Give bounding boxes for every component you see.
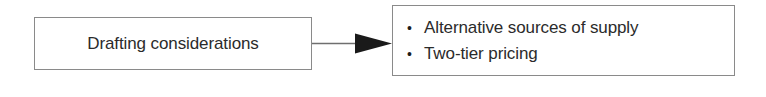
source-node[interactable]: Drafting considerations	[34, 17, 312, 70]
list-item-label: Alternative sources of supply	[424, 15, 638, 41]
bullet-icon: •	[407, 18, 424, 39]
bullet-icon: •	[407, 44, 424, 65]
arrow-right-icon	[310, 28, 394, 60]
list-item: • Two-tier pricing	[407, 41, 734, 67]
source-node-label: Drafting considerations	[87, 35, 259, 52]
list-item: • Alternative sources of supply	[407, 15, 734, 41]
outcome-node[interactable]: • Alternative sources of supply • Two-ti…	[392, 5, 735, 76]
arrow-head	[355, 34, 392, 54]
flow-diagram: Drafting considerations • Alternative so…	[0, 0, 766, 97]
outcome-bullet-list: • Alternative sources of supply • Two-ti…	[407, 15, 734, 67]
list-item-label: Two-tier pricing	[424, 41, 538, 67]
